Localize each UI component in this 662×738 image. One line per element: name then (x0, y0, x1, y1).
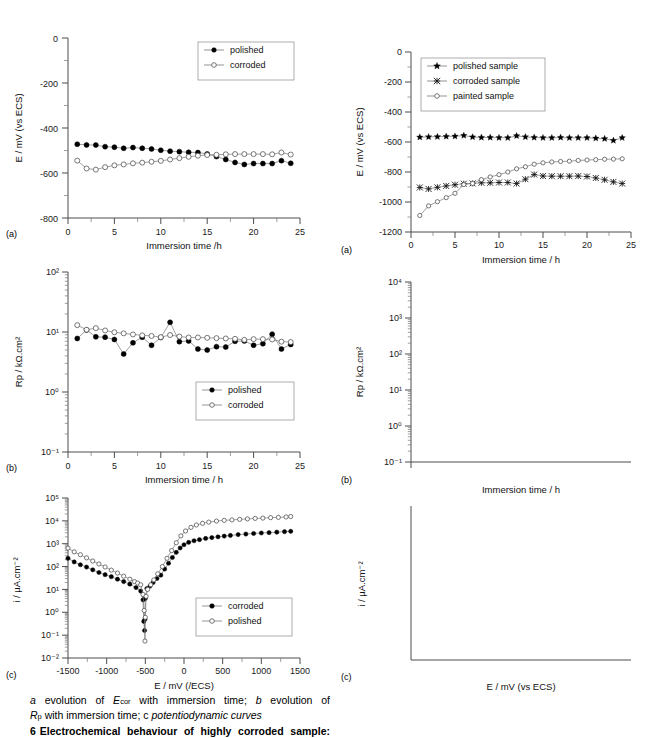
panel-right-a: 0-200-400-600-800-1000-1200 0510152025 E… (331, 40, 662, 275)
legend-right-a[interactable]: polished samplecorroded samplepainted sa… (421, 58, 545, 111)
x-axis-title: Immersion time / h (482, 484, 560, 495)
svg-text:polished sample: polished sample (453, 61, 518, 71)
svg-text:10²: 10² (46, 562, 59, 572)
svg-text:10¹: 10¹ (46, 585, 59, 595)
svg-text:10²: 10² (46, 267, 59, 277)
y-axis-title: Rp / kΩ.cm² (354, 347, 365, 397)
figure-page: 0 -200 -400 -600 -800 (0, 0, 662, 738)
x-axis-title: Immersion time / h (482, 254, 560, 265)
svg-text:-500: -500 (136, 666, 154, 676)
panel-left-a: 0 -200 -400 -600 -800 (0, 22, 331, 252)
axis-right-b: 10⁴10³10²10¹10⁰10⁻¹ (384, 277, 631, 468)
svg-text:1000: 1000 (251, 666, 271, 676)
svg-text:-600: -600 (384, 137, 402, 147)
svg-text:10⁰: 10⁰ (388, 421, 402, 431)
panel-right-c: i / µA.cm⁻² E / mV (vs ECS) (c) (331, 500, 662, 695)
x-axis-title: Immersion time / h (145, 474, 223, 485)
svg-text:0: 0 (397, 47, 402, 57)
svg-text:1500: 1500 (290, 666, 310, 676)
chart-left-b: 10²10¹10⁰10⁻¹ 0 5 10 15 (0, 256, 331, 486)
legend-left-a[interactable]: polishedcorroded (198, 42, 294, 80)
svg-text:0: 0 (65, 461, 70, 471)
panel-label-a: (a) (6, 229, 17, 239)
svg-text:10³: 10³ (389, 313, 402, 323)
svg-text:10: 10 (494, 240, 504, 250)
svg-text:10⁴: 10⁴ (388, 277, 402, 287)
chart-right-c: i / µA.cm⁻² E / mV (vs ECS) (331, 500, 662, 695)
svg-text:5: 5 (452, 240, 457, 250)
svg-text:-1200: -1200 (379, 227, 402, 237)
caption-left-line1: a evolution of Ecor with immersion time;… (30, 694, 330, 709)
chart-left-c: 10⁵10⁴10³10²10¹10⁰10⁻¹10⁻² -1500-1000-50… (0, 490, 331, 695)
chart-right-a: 0-200-400-600-800-1000-1200 0510152025 E… (331, 40, 662, 275)
svg-text:-800: -800 (40, 214, 58, 224)
svg-text:corroded: corroded (228, 400, 264, 410)
svg-text:10⁻¹: 10⁻¹ (384, 457, 402, 467)
svg-text:-800: -800 (384, 167, 402, 177)
panel-label-c: (c) (6, 670, 17, 680)
svg-text:5: 5 (112, 461, 117, 471)
y-axis-title: i / µA.cm⁻² (356, 561, 367, 606)
svg-text:-600: -600 (40, 169, 58, 179)
svg-text:polished: polished (228, 385, 262, 395)
svg-text:10⁰: 10⁰ (45, 607, 59, 617)
svg-text:0: 0 (53, 34, 58, 44)
x-axis-title: Immersion time /h (146, 240, 222, 251)
panel-label-a: (a) (341, 245, 352, 255)
plot-series-left-b (75, 320, 293, 357)
panel-label-c: (c) (341, 672, 352, 682)
svg-text:20: 20 (249, 227, 259, 237)
caption-left-title: 6Electrochemical behaviour of highly cor… (30, 725, 330, 738)
svg-text:10⁻¹: 10⁻¹ (41, 630, 59, 640)
svg-text:500: 500 (215, 666, 230, 676)
svg-text:10⁻²: 10⁻² (41, 653, 59, 663)
plot-series-left-a (75, 142, 293, 172)
chart-left-a: 0 -200 -400 -600 -800 (0, 22, 331, 252)
svg-text:10⁻¹: 10⁻¹ (41, 447, 59, 457)
legend-left-b[interactable]: polishedcorroded (196, 382, 294, 420)
svg-text:10⁰: 10⁰ (45, 387, 59, 397)
svg-text:25: 25 (295, 461, 305, 471)
figure-column-right: 0-200-400-600-800-1000-1200 0510152025 E… (331, 0, 662, 738)
axis-left-b: 10²10¹10⁰10⁻¹ 0 5 10 15 (41, 267, 305, 471)
svg-text:15: 15 (202, 461, 212, 471)
x-axis-title: E / mV (vs ECS) (486, 681, 555, 692)
axis-right-c (411, 506, 631, 660)
svg-text:25: 25 (295, 227, 305, 237)
y-axis-title: i / µA.cm⁻² (11, 557, 22, 602)
svg-text:-200: -200 (384, 77, 402, 87)
svg-text:15: 15 (538, 240, 548, 250)
svg-text:-1000: -1000 (95, 666, 118, 676)
panel-label-b: (b) (341, 475, 352, 485)
svg-text:0: 0 (181, 666, 186, 676)
chart-right-b: 10⁴10³10²10¹10⁰10⁻¹ Rp / kΩ.cm² Immersio… (331, 272, 662, 502)
svg-text:corroded: corroded (230, 60, 266, 70)
caption-left: a evolution of Ecor with immersion time;… (30, 694, 330, 738)
y-axis-title: E / mV (vs ECS) (354, 107, 365, 176)
svg-text:-1500: -1500 (56, 666, 79, 676)
svg-text:10¹: 10¹ (389, 385, 402, 395)
y-axis-title: E / mV (vs ECS) (13, 93, 24, 162)
svg-text:-1000: -1000 (379, 197, 402, 207)
panel-left-b: 10²10¹10⁰10⁻¹ 0 5 10 15 (0, 256, 331, 486)
svg-text:-400: -400 (40, 124, 58, 134)
svg-text:20: 20 (249, 461, 259, 471)
svg-text:-200: -200 (40, 79, 58, 89)
svg-text:polished: polished (230, 45, 264, 55)
svg-text:10²: 10² (389, 349, 402, 359)
axis-left-c: 10⁵10⁴10³10²10¹10⁰10⁻¹10⁻² -1500-1000-50… (41, 493, 310, 676)
svg-text:0: 0 (65, 227, 70, 237)
legend-left-c[interactable]: corrodedpolished (196, 598, 292, 636)
svg-text:10: 10 (156, 227, 166, 237)
panel-label-b: (b) (6, 463, 17, 473)
figure-column-left: 0 -200 -400 -600 -800 (0, 0, 331, 738)
svg-text:10⁵: 10⁵ (45, 493, 59, 503)
svg-text:5: 5 (112, 227, 117, 237)
svg-text:10⁴: 10⁴ (45, 516, 59, 526)
svg-text:15: 15 (202, 227, 212, 237)
svg-text:painted sample: painted sample (453, 91, 514, 101)
svg-text:10³: 10³ (46, 539, 59, 549)
svg-text:20: 20 (582, 240, 592, 250)
svg-text:corroded sample: corroded sample (453, 76, 520, 86)
y-axis-title: Rp / kΩ.cm² (13, 337, 24, 387)
